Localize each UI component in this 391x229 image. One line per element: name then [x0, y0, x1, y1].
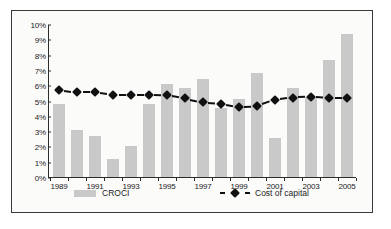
y-axis-tick-label: 2%: [35, 143, 48, 152]
line-series-cost-of-capital: [48, 25, 356, 178]
x-axis-tick-mark: [86, 178, 87, 181]
y-axis-tick: 5%: [35, 97, 48, 106]
y-axis-tick: 8%: [35, 51, 48, 60]
x-axis-tick-mark: [302, 178, 303, 181]
line-dash-segment: [137, 94, 144, 96]
data-point-marker: [252, 101, 262, 111]
legend-label-cost-of-capital: Cost of capital: [255, 188, 309, 198]
x-axis-tick-mark: [266, 178, 267, 181]
y-axis-tick-label: 0%: [35, 174, 48, 183]
chart-legend: CROCI Cost of capital: [48, 186, 356, 200]
data-point-marker: [126, 90, 136, 100]
line-dash-segment: [83, 91, 90, 93]
data-point-marker: [342, 93, 352, 103]
y-axis-tick-label: 10%: [31, 21, 48, 30]
y-axis-tick-label: 5%: [35, 97, 48, 106]
line-dash-segment: [298, 96, 305, 98]
y-axis-tick: 4%: [35, 112, 48, 121]
y-axis-tick-label: 7%: [35, 66, 48, 75]
y-axis-tick: 0%: [35, 174, 48, 183]
x-axis-tick-mark: [338, 178, 339, 181]
y-axis-tick: 1%: [35, 158, 48, 167]
legend-label-croci: CROCI: [102, 188, 129, 198]
data-point-marker: [306, 92, 316, 102]
x-axis-tick-mark: [284, 178, 285, 181]
legend-item-cost-of-capital: Cost of capital: [220, 186, 309, 200]
x-axis-tick-mark: [122, 178, 123, 181]
y-axis-tick-label: 1%: [35, 158, 48, 167]
data-point-marker: [72, 87, 82, 97]
line-dash-segment: [100, 92, 107, 95]
dashed-line-marker-icon: [220, 189, 250, 197]
line-dash-segment: [316, 96, 323, 99]
data-point-marker: [90, 87, 100, 97]
y-axis-tick-label: 8%: [35, 51, 48, 60]
y-axis-tick-label: 3%: [35, 128, 48, 137]
x-axis-tick-mark: [140, 178, 141, 181]
line-dash-segment: [154, 94, 161, 96]
x-axis-tick-mark: [68, 178, 69, 181]
line-dash-segment: [172, 95, 179, 98]
line-dash-segment: [208, 102, 215, 105]
x-axis-tick-mark: [230, 178, 231, 181]
x-axis-tick-mark: [194, 178, 195, 181]
legend-item-croci: CROCI: [74, 186, 129, 200]
line-dash-segment: [119, 94, 126, 96]
x-axis-tick-mark: [158, 178, 159, 181]
data-point-marker: [234, 102, 244, 112]
data-point-marker: [270, 95, 280, 105]
data-point-marker: [324, 93, 334, 103]
y-axis-tick: 2%: [35, 143, 48, 152]
data-point-marker: [108, 90, 118, 100]
bar-swatch-icon: [74, 190, 96, 197]
plot-area: 0%1%2%3%4%5%6%7%8%9%10% 1989199119931995…: [48, 25, 356, 178]
data-point-marker: [54, 85, 64, 95]
line-dash-segment: [280, 97, 287, 100]
data-point-marker: [216, 99, 226, 109]
data-point-marker: [198, 97, 208, 107]
x-axis-tick-mark: [50, 178, 51, 181]
y-axis-tick: 9%: [35, 36, 48, 45]
y-axis-tick-label: 4%: [35, 112, 48, 121]
y-axis-tick: 3%: [35, 128, 48, 137]
chart-figure: 0%1%2%3%4%5%6%7%8%9%10% 1989199119931995…: [11, 10, 373, 213]
y-axis-tick-label: 6%: [35, 82, 48, 91]
data-point-marker: [288, 93, 298, 103]
y-axis-tick: 10%: [31, 21, 48, 30]
x-axis-tick-mark: [212, 178, 213, 181]
data-point-marker: [162, 90, 172, 100]
x-axis-tick-mark: [176, 178, 177, 181]
y-axis-tick: 7%: [35, 66, 48, 75]
line-dash-segment: [226, 104, 233, 107]
x-axis-tick-mark: [356, 178, 357, 181]
line-dash-segment: [190, 99, 198, 102]
x-axis-tick-mark: [320, 178, 321, 181]
y-axis-tick: 6%: [35, 82, 48, 91]
x-axis-tick-mark: [248, 178, 249, 181]
line-dash-segment: [64, 90, 71, 93]
data-point-marker: [180, 93, 190, 103]
line-dash-segment: [262, 101, 270, 105]
data-point-marker: [144, 90, 154, 100]
line-dash-segment: [335, 97, 342, 99]
line-dash-segment: [244, 105, 251, 107]
y-axis-tick-label: 9%: [35, 36, 48, 45]
x-axis-tick-mark: [104, 178, 105, 181]
